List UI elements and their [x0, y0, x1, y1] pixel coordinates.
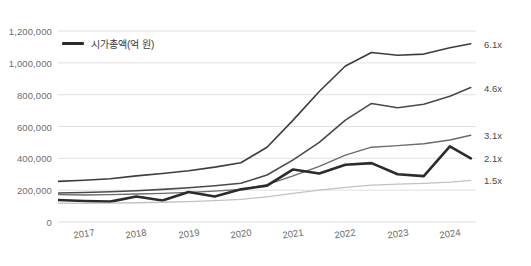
series-end-label: 4.6x — [484, 82, 502, 93]
series-end-label: 3.1x — [484, 130, 502, 141]
legend-swatch-icon — [62, 42, 84, 45]
chart-container: 0200,000400,000600,000800,0001,000,0001,… — [0, 0, 531, 266]
legend: 시가총액(억 원) — [62, 36, 154, 51]
series-end-label: 6.1x — [484, 38, 502, 49]
legend-label: 시가총액(억 원) — [91, 36, 154, 51]
series-end-label: 2.1x — [484, 153, 502, 164]
series-end-label: 1.5x — [484, 175, 502, 186]
